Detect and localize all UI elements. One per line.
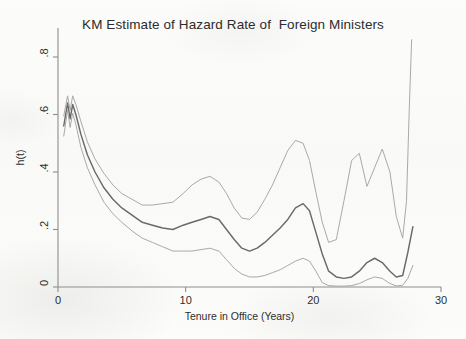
series-lower — [64, 110, 413, 286]
y-tick-label: .6 — [38, 106, 50, 115]
hazard-rate-plot: 0.2.4.6.8 0102030 h(t) Tenure in Office … — [0, 0, 466, 339]
y-tick-label: .4 — [38, 163, 50, 172]
x-tick-label: 0 — [55, 294, 61, 306]
x-tick-label: 30 — [435, 294, 447, 306]
screenshot-root: KM Estimate of Hazard Rate of Foreign Mi… — [0, 0, 466, 339]
data-series-layer — [64, 40, 413, 286]
y-axis-ticks: 0.2.4.6.8 — [38, 48, 58, 287]
y-tick-label: .2 — [38, 221, 50, 230]
x-tick-label: 20 — [307, 294, 319, 306]
y-tick-label: 0 — [38, 280, 50, 286]
x-axis-title: Tenure in Office (Years) — [185, 310, 295, 322]
y-tick-label: .8 — [38, 48, 50, 57]
series-upper — [64, 40, 412, 243]
x-axis-ticks: 0102030 — [55, 287, 447, 306]
plot-frame — [58, 28, 441, 287]
y-axis-title: h(t) — [14, 150, 26, 166]
x-tick-label: 10 — [180, 294, 192, 306]
series-estimate — [64, 103, 413, 278]
